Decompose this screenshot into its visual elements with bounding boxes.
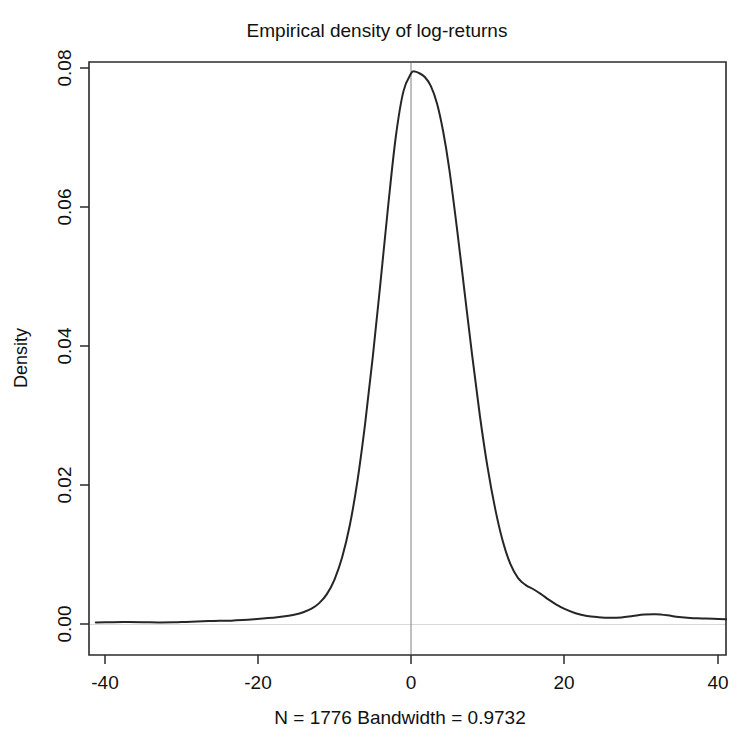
y-axis-title: Density [11,328,31,388]
x-axis-caption: N = 1776 Bandwidth = 0.9732 [274,707,525,728]
x-tick-label--20: -20 [244,672,271,693]
y-tick-label-0.00: 0.00 [54,606,75,643]
y-tick-label-0.04: 0.04 [54,327,75,364]
x-tick-label-20: 20 [553,672,574,693]
y-tick-label-0.06: 0.06 [54,189,75,226]
x-tick-label-40: 40 [707,672,728,693]
x-tick-label--40: -40 [91,672,118,693]
y-tick-label-0.08: 0.08 [54,50,75,87]
x-tick-label-0: 0 [406,672,417,693]
y-tick-label-0.02: 0.02 [54,467,75,504]
figure-background [0,0,755,750]
plot-canvas: Empirical density of log-returns Density… [0,0,755,750]
chart-title: Empirical density of log-returns [247,20,508,41]
density-plot-figure: Empirical density of log-returns Density… [0,0,755,750]
